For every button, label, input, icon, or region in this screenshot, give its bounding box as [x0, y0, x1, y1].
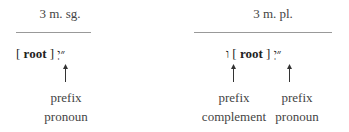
suffix-yod: ״יְ [274, 47, 282, 61]
formula-3m-pl: ו [ root ] ״יְ [226, 46, 281, 62]
label-line1: prefix [262, 88, 332, 107]
bracket-close: ] [266, 46, 270, 61]
prefix-vav: ו [226, 47, 229, 61]
label-prefix-pronoun: prefix pronoun [262, 88, 332, 126]
suffix-yod: ״יְ [57, 47, 65, 61]
label-line1: prefix [36, 88, 96, 107]
bracket-open: [ [16, 46, 20, 61]
label-prefix-pronoun: prefix pronoun [36, 88, 96, 126]
heading-3m-pl: 3 m. pl. [228, 6, 318, 22]
bracket-close: ] [50, 46, 54, 61]
bracket-open: [ [232, 46, 236, 61]
root-label: root [24, 46, 47, 61]
label-line2: pronoun [36, 107, 96, 126]
arrow-up-icon [61, 64, 70, 82]
arrow-up-icon [285, 64, 294, 82]
arrow-up-icon [229, 64, 238, 82]
divider-3m-pl [194, 32, 332, 33]
heading-3m-sg: 3 m. sg. [15, 6, 105, 22]
label-line2: pronoun [262, 107, 332, 126]
divider-3m-sg [16, 32, 91, 33]
formula-3m-sg: [ root ] ״יְ [16, 46, 65, 62]
root-label: root [240, 46, 263, 61]
